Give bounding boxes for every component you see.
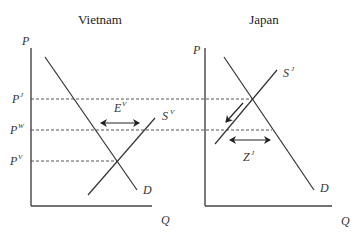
svg-text:V: V [170, 108, 175, 116]
svg-text:S: S [283, 66, 289, 80]
trade-diagram: Vietnam Japan P Q P J P W P V D S V E V … [0, 0, 358, 236]
svg-text:J: J [291, 65, 295, 73]
pv-label: P V [9, 153, 23, 168]
price-decline-arrow [226, 103, 243, 122]
imports-label: Z J [243, 149, 255, 164]
vietnam-q-axis-label: Q [161, 213, 170, 227]
svg-text:J: J [251, 149, 255, 157]
pj-label: P J [11, 91, 24, 106]
japan-supply-curve [215, 70, 277, 144]
svg-text:S: S [162, 109, 168, 123]
japan-p-axis-label: P [192, 43, 201, 57]
pw-label: P W [9, 122, 25, 137]
svg-text:Z: Z [243, 150, 250, 164]
japan-supply-label: S J [283, 65, 295, 80]
svg-text:V: V [18, 153, 23, 161]
japan-demand-label: D [319, 181, 329, 195]
japan-demand-curve [224, 57, 314, 190]
svg-text:P: P [9, 123, 18, 137]
japan-title: Japan [249, 12, 279, 27]
svg-text:P: P [11, 92, 20, 106]
svg-text:J: J [20, 91, 24, 99]
vietnam-title: Vietnam [78, 12, 122, 27]
svg-text:W: W [18, 122, 25, 130]
svg-text:P: P [9, 154, 18, 168]
svg-text:V: V [122, 100, 127, 108]
svg-text:E: E [113, 101, 122, 115]
vietnam-p-axis-label: P [21, 34, 30, 48]
vietnam-supply-label: S V [162, 108, 175, 123]
exports-label: E V [113, 100, 127, 115]
japan-q-axis-label: Q [341, 214, 350, 228]
vietnam-demand-label: D [142, 183, 152, 197]
